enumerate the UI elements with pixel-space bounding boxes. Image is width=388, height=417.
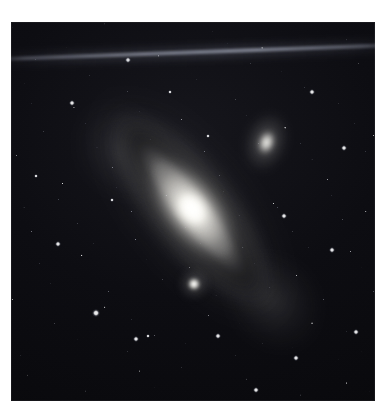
film-grain [11, 22, 375, 401]
photo-page: Astronomical photograph of the Andromeda… [0, 0, 388, 417]
astronomical-photograph[interactable] [11, 22, 375, 401]
